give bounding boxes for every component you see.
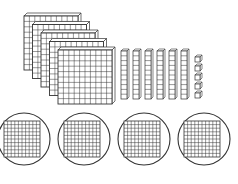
one-cube xyxy=(195,55,202,62)
circled-hundred-flat xyxy=(58,113,110,165)
circled-hundred-flat xyxy=(118,113,170,165)
ten-rod xyxy=(169,49,177,99)
base-ten-blocks-diagram xyxy=(0,0,238,184)
ten-rod xyxy=(133,49,141,99)
one-cube xyxy=(195,73,202,80)
circled-hundreds-flats xyxy=(0,113,230,165)
ten-rod xyxy=(181,49,189,99)
hundreds-flats-stack xyxy=(24,13,115,104)
tens-rods xyxy=(121,49,189,99)
ones-cubes xyxy=(195,55,202,98)
ten-rod xyxy=(121,49,129,99)
one-cube xyxy=(195,91,202,98)
one-cube xyxy=(195,64,202,71)
ten-rod xyxy=(157,49,165,99)
ten-rod xyxy=(145,49,153,99)
one-cube xyxy=(195,82,202,89)
circled-hundred-flat xyxy=(0,113,50,165)
hundred-flat xyxy=(58,47,115,104)
circled-hundred-flat xyxy=(178,113,230,165)
